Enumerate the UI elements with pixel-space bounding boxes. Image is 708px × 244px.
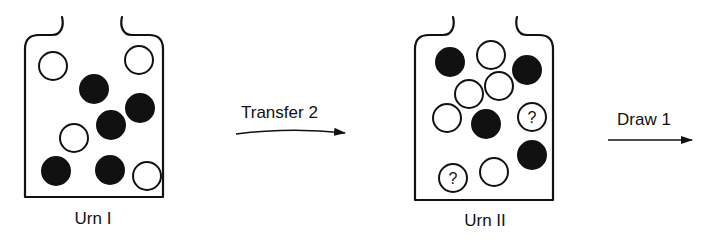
urn-label: Urn II	[464, 211, 506, 231]
white-ball	[480, 158, 508, 186]
black-ball	[42, 157, 70, 185]
white-ball	[455, 80, 483, 108]
white-ball	[125, 46, 153, 74]
white-ball	[477, 41, 505, 69]
white-ball	[485, 72, 513, 100]
urn-diagram: ??	[0, 0, 708, 244]
arrow-label: Draw 1	[617, 110, 671, 130]
urn-label: Urn I	[75, 209, 112, 229]
question-mark: ?	[528, 109, 537, 126]
white-ball	[133, 162, 161, 190]
white-ball	[60, 124, 88, 152]
black-ball	[513, 56, 541, 84]
black-ball	[126, 94, 154, 122]
black-ball	[518, 141, 546, 169]
white-ball	[39, 52, 67, 80]
urn-1	[25, 17, 163, 197]
arrow-label: Transfer 2	[241, 103, 318, 123]
black-ball	[97, 111, 125, 139]
question-mark: ?	[449, 170, 458, 187]
arrow-1	[236, 130, 345, 134]
black-ball	[80, 75, 108, 103]
urn-2: ??	[415, 17, 553, 200]
white-ball	[433, 104, 461, 132]
black-ball	[436, 48, 464, 76]
black-ball	[472, 110, 500, 138]
black-ball	[96, 156, 124, 184]
